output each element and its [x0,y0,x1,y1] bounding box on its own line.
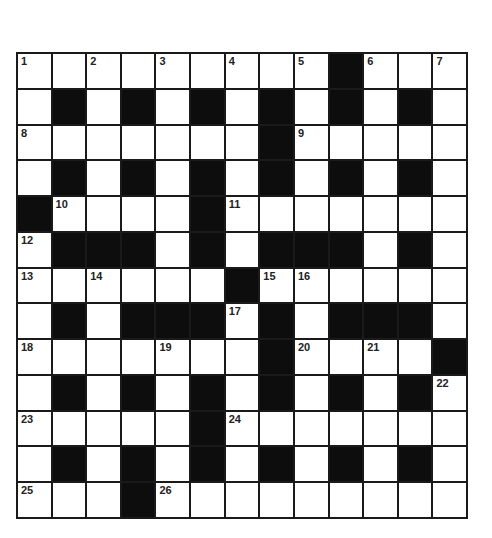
grid-cell[interactable] [330,269,363,303]
grid-cell[interactable] [87,197,120,231]
grid-cell[interactable] [53,340,86,374]
grid-cell[interactable] [330,126,363,160]
grid-cell[interactable] [364,269,397,303]
grid-cell[interactable] [295,197,328,231]
grid-cell[interactable] [364,447,397,481]
grid-cell[interactable] [364,376,397,410]
grid-cell[interactable]: 25 [18,483,51,517]
grid-cell[interactable] [156,269,189,303]
grid-cell[interactable]: 16 [295,269,328,303]
grid-cell[interactable] [191,340,224,374]
grid-cell[interactable] [364,90,397,124]
grid-cell[interactable] [191,54,224,88]
grid-cell[interactable] [295,376,328,410]
grid-cell[interactable] [399,269,432,303]
grid-cell[interactable] [156,126,189,160]
grid-cell[interactable] [226,376,259,410]
grid-cell[interactable] [122,126,155,160]
grid-cell[interactable] [156,447,189,481]
grid-cell[interactable]: 20 [295,340,328,374]
grid-cell[interactable] [226,90,259,124]
grid-cell[interactable]: 12 [18,233,51,267]
grid-cell[interactable]: 18 [18,340,51,374]
grid-cell[interactable] [433,269,466,303]
grid-cell[interactable] [364,412,397,446]
grid-cell[interactable]: 21 [364,340,397,374]
grid-cell[interactable] [87,126,120,160]
grid-cell[interactable] [87,447,120,481]
grid-cell[interactable] [364,197,397,231]
grid-cell[interactable] [433,483,466,517]
grid-cell[interactable]: 15 [260,269,293,303]
grid-cell[interactable] [53,54,86,88]
grid-cell[interactable] [191,483,224,517]
grid-cell[interactable] [156,376,189,410]
grid-cell[interactable] [53,126,86,160]
grid-cell[interactable] [364,483,397,517]
grid-cell[interactable] [18,304,51,338]
grid-cell[interactable]: 17 [226,304,259,338]
grid-cell[interactable] [191,269,224,303]
grid-cell[interactable]: 23 [18,412,51,446]
grid-cell[interactable] [364,233,397,267]
grid-cell[interactable] [226,483,259,517]
grid-cell[interactable] [260,54,293,88]
grid-cell[interactable] [433,412,466,446]
grid-cell[interactable] [226,161,259,195]
grid-cell[interactable] [87,412,120,446]
grid-cell[interactable]: 5 [295,54,328,88]
grid-cell[interactable] [295,90,328,124]
grid-cell[interactable] [295,447,328,481]
grid-cell[interactable] [53,412,86,446]
grid-cell[interactable] [295,304,328,338]
grid-cell[interactable] [87,376,120,410]
grid-cell[interactable] [87,340,120,374]
grid-cell[interactable] [295,412,328,446]
grid-cell[interactable] [87,304,120,338]
grid-cell[interactable] [122,340,155,374]
grid-cell[interactable]: 2 [87,54,120,88]
grid-cell[interactable]: 22 [433,376,466,410]
grid-cell[interactable] [433,447,466,481]
grid-cell[interactable] [191,126,224,160]
grid-cell[interactable] [122,54,155,88]
grid-cell[interactable]: 9 [295,126,328,160]
grid-cell[interactable] [433,197,466,231]
grid-cell[interactable] [122,269,155,303]
grid-cell[interactable] [330,412,363,446]
grid-cell[interactable] [226,126,259,160]
grid-cell[interactable] [156,90,189,124]
grid-cell[interactable]: 1 [18,54,51,88]
grid-cell[interactable] [53,483,86,517]
grid-cell[interactable]: 13 [18,269,51,303]
grid-cell[interactable]: 6 [364,54,397,88]
grid-cell[interactable] [87,90,120,124]
grid-cell[interactable] [18,376,51,410]
grid-cell[interactable] [18,90,51,124]
grid-cell[interactable]: 7 [433,54,466,88]
grid-cell[interactable] [399,483,432,517]
grid-cell[interactable] [226,340,259,374]
grid-cell[interactable] [260,483,293,517]
grid-cell[interactable] [330,483,363,517]
grid-cell[interactable] [399,412,432,446]
grid-cell[interactable] [364,126,397,160]
grid-cell[interactable] [156,412,189,446]
grid-cell[interactable] [156,197,189,231]
grid-cell[interactable] [87,483,120,517]
grid-cell[interactable] [226,233,259,267]
grid-cell[interactable] [53,269,86,303]
grid-cell[interactable] [433,90,466,124]
grid-cell[interactable] [399,54,432,88]
grid-cell[interactable]: 10 [53,197,86,231]
grid-cell[interactable] [18,447,51,481]
grid-cell[interactable]: 11 [226,197,259,231]
grid-cell[interactable]: 24 [226,412,259,446]
grid-cell[interactable]: 8 [18,126,51,160]
grid-cell[interactable] [87,161,120,195]
grid-cell[interactable] [364,161,397,195]
grid-cell[interactable] [260,412,293,446]
grid-cell[interactable] [156,233,189,267]
grid-cell[interactable]: 26 [156,483,189,517]
grid-cell[interactable] [156,161,189,195]
